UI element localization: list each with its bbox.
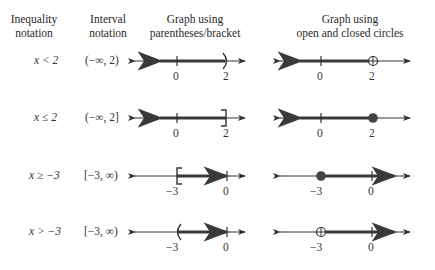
closed-circle-icon <box>368 113 378 123</box>
svg-text:2: 2 <box>369 70 375 82</box>
svg-text:−3: −3 <box>166 185 178 197</box>
svg-text:2: 2 <box>369 127 375 139</box>
row-2-circle-graph: 0 2 <box>280 113 410 139</box>
svg-text:0: 0 <box>223 241 229 253</box>
svg-text:0: 0 <box>317 70 323 82</box>
tick-label: 2 <box>223 70 229 82</box>
svg-text:0: 0 <box>223 185 229 197</box>
row-2-paren-graph: 0 2 <box>135 110 245 139</box>
svg-text:−3: −3 <box>310 241 322 253</box>
svg-text:0: 0 <box>317 127 323 139</box>
row-1-paren-graph: 0 2 <box>135 53 245 82</box>
svg-text:−3: −3 <box>310 185 322 197</box>
row-4-paren-graph: −3 0 <box>135 224 245 253</box>
row-1-circle-graph: 0 2 <box>280 56 410 82</box>
row-3-paren-graph: −3 0 <box>135 168 245 197</box>
svg-text:0: 0 <box>173 127 179 139</box>
row-3-circle-graph: −3 0 <box>280 171 410 197</box>
closed-circle-icon <box>316 171 326 181</box>
svg-text:0: 0 <box>368 241 374 253</box>
svg-text:−3: −3 <box>166 241 178 253</box>
row-4-circle-graph: −3 0 <box>280 227 410 253</box>
svg-text:0: 0 <box>368 185 374 197</box>
svg-text:2: 2 <box>223 127 229 139</box>
number-line-graphs: 0 2 0 2 0 2 0 2 −3 0 <box>0 0 435 270</box>
tick-label: 0 <box>173 70 179 82</box>
